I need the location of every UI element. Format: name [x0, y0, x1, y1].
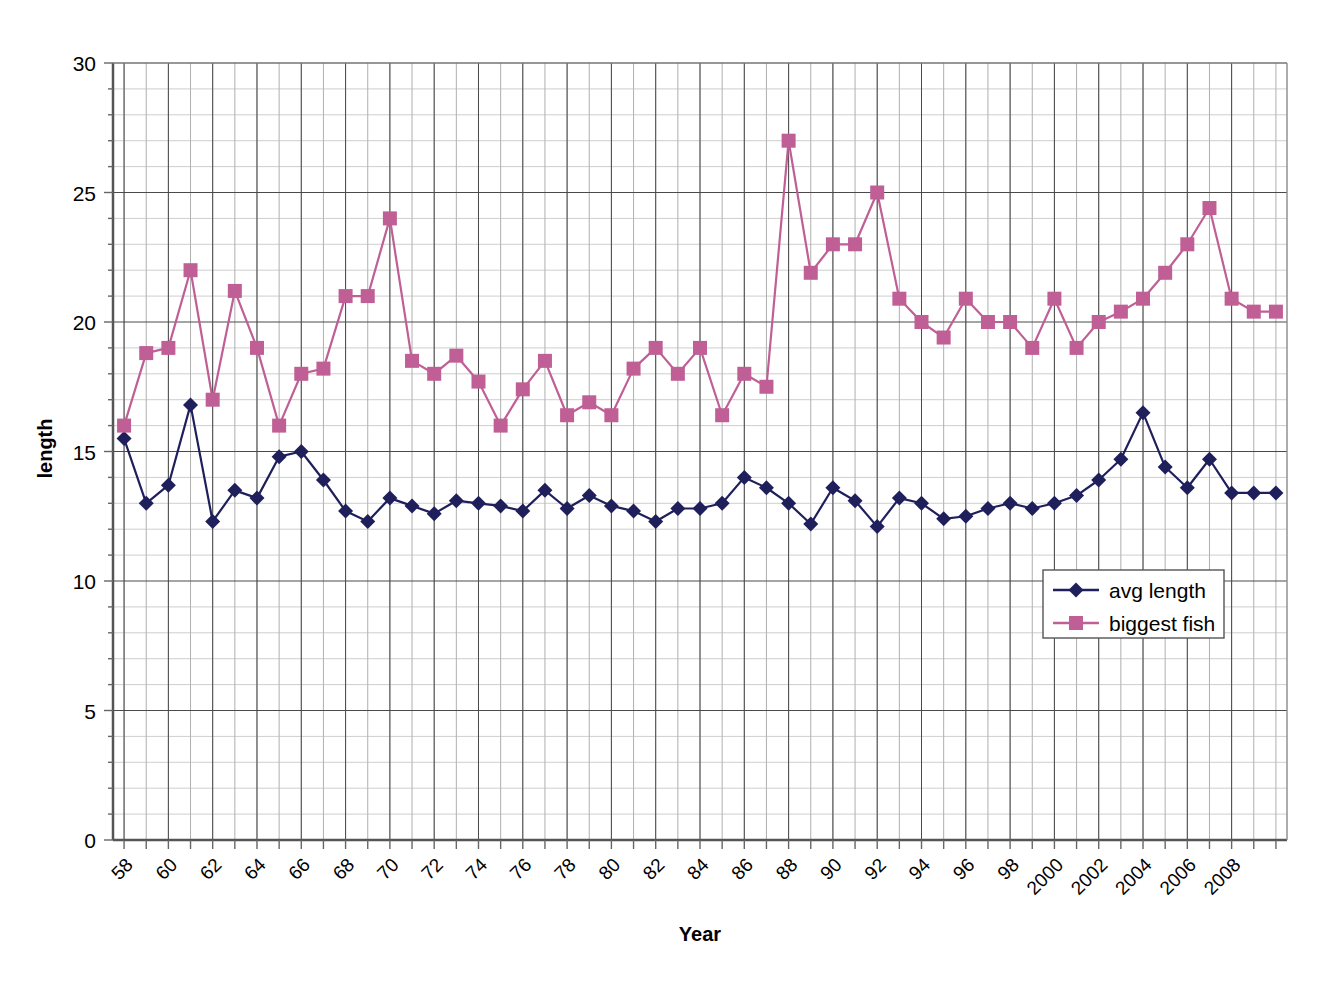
data-point-marker: [693, 341, 707, 355]
x-tick-label: 2008: [1200, 854, 1245, 899]
data-point-marker: [117, 419, 131, 433]
y-axis-title: length: [34, 419, 56, 479]
y-tick-label: 25: [73, 182, 96, 205]
line-chart: 0510152025305860626466687072747678808284…: [0, 0, 1328, 983]
x-tick-label: 2000: [1022, 854, 1067, 899]
data-point-marker: [759, 380, 773, 394]
data-point-marker: [1114, 305, 1128, 319]
data-point-marker: [1025, 341, 1039, 355]
data-point-marker: [892, 292, 906, 306]
data-point-marker: [1003, 315, 1017, 329]
x-tick-label: 82: [639, 854, 669, 884]
data-point-marker: [250, 341, 264, 355]
data-point-marker: [1047, 292, 1061, 306]
data-point-marker: [471, 375, 485, 389]
data-point-marker: [1092, 315, 1106, 329]
chart-container: 0510152025305860626466687072747678808284…: [0, 0, 1328, 983]
x-tick-label: 2004: [1111, 854, 1156, 899]
legend-marker-square: [1069, 616, 1083, 630]
data-point-marker: [627, 362, 641, 376]
data-point-marker: [959, 292, 973, 306]
data-point-marker: [272, 419, 286, 433]
data-point-marker: [1269, 305, 1283, 319]
data-point-marker: [937, 331, 951, 345]
x-tick-label: 58: [107, 854, 137, 884]
data-point-marker: [449, 349, 463, 363]
x-tick-label: 64: [240, 854, 270, 884]
data-point-marker: [361, 289, 375, 303]
y-tick-label: 15: [73, 441, 96, 464]
x-tick-label: 68: [329, 854, 359, 884]
data-point-marker: [427, 367, 441, 381]
x-tick-label: 80: [594, 854, 624, 884]
x-tick-label: 98: [993, 854, 1023, 884]
data-point-marker: [139, 346, 153, 360]
data-point-marker: [161, 341, 175, 355]
x-tick-label: 62: [196, 854, 226, 884]
x-tick-label: 92: [860, 854, 890, 884]
data-point-marker: [405, 354, 419, 368]
legend-label-1: biggest fish: [1109, 612, 1215, 635]
y-tick-label: 30: [73, 52, 96, 75]
data-point-marker: [804, 266, 818, 280]
y-tick-label: 0: [84, 829, 96, 852]
legend: avg lengthbiggest fish: [1043, 570, 1224, 638]
y-tick-label: 5: [84, 700, 96, 723]
data-point-marker: [1247, 305, 1261, 319]
data-point-marker: [516, 382, 530, 396]
data-point-marker: [782, 134, 796, 148]
data-point-marker: [1225, 292, 1239, 306]
x-tick-label: 84: [683, 854, 713, 884]
data-point-marker: [649, 341, 663, 355]
data-point-marker: [383, 211, 397, 225]
x-axis-ticks: 5860626466687072747678808284868890929496…: [107, 840, 1276, 899]
y-axis-ticks: 051015202530: [73, 52, 113, 852]
data-point-marker: [1158, 266, 1172, 280]
x-axis-title: Year: [679, 923, 721, 945]
data-point-marker: [737, 367, 751, 381]
data-point-marker: [494, 419, 508, 433]
x-tick-label: 66: [284, 854, 314, 884]
data-point-marker: [1136, 292, 1150, 306]
data-point-marker: [715, 408, 729, 422]
data-point-marker: [184, 263, 198, 277]
data-point-marker: [538, 354, 552, 368]
x-tick-label: 2002: [1067, 854, 1112, 899]
y-tick-label: 10: [73, 570, 96, 593]
data-point-marker: [848, 237, 862, 251]
data-point-marker: [294, 367, 308, 381]
data-point-marker: [316, 362, 330, 376]
x-tick-label: 90: [816, 854, 846, 884]
x-tick-label: 86: [727, 854, 757, 884]
data-point-marker: [1202, 201, 1216, 215]
x-tick-label: 60: [151, 854, 181, 884]
x-tick-label: 94: [905, 854, 935, 884]
data-point-marker: [981, 315, 995, 329]
x-tick-label: 88: [772, 854, 802, 884]
data-point-marker: [582, 395, 596, 409]
x-tick-label: 76: [506, 854, 536, 884]
y-tick-label: 20: [73, 311, 96, 334]
x-tick-label: 2006: [1155, 854, 1200, 899]
data-point-marker: [604, 408, 618, 422]
data-point-marker: [228, 284, 242, 298]
x-tick-label: 96: [949, 854, 979, 884]
data-point-marker: [826, 237, 840, 251]
data-point-marker: [915, 315, 929, 329]
data-point-marker: [206, 393, 220, 407]
data-point-marker: [560, 408, 574, 422]
x-tick-label: 72: [417, 854, 447, 884]
x-tick-label: 74: [462, 854, 492, 884]
data-point-marker: [671, 367, 685, 381]
data-point-marker: [339, 289, 353, 303]
data-point-marker: [1180, 237, 1194, 251]
data-point-marker: [1070, 341, 1084, 355]
data-point-marker: [870, 186, 884, 200]
x-tick-label: 70: [373, 854, 403, 884]
legend-label-0: avg length: [1109, 579, 1206, 602]
x-tick-label: 78: [550, 854, 580, 884]
